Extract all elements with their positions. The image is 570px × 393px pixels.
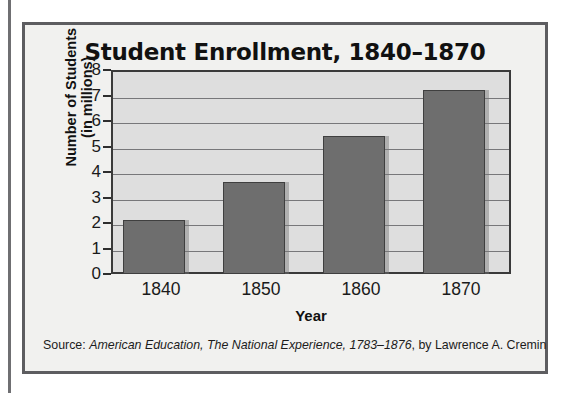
- figure-page: Student Enrollment, 1840–1870 012345678 …: [0, 0, 570, 393]
- y-axis-tick-label: 3: [92, 188, 101, 208]
- source-note: Source: American Education, The National…: [43, 338, 533, 352]
- gridline: [113, 98, 509, 99]
- gridline: [113, 123, 509, 124]
- y-axis-tick: [103, 197, 111, 199]
- y-axis-tick: [103, 273, 111, 275]
- x-axis-title: Year: [111, 307, 511, 324]
- y-axis-ticks: [103, 70, 111, 274]
- y-axis-title: Number of Students (in millions): [63, 7, 95, 187]
- y-axis-title-line2: (in millions): [79, 7, 95, 187]
- gridline: [113, 200, 509, 201]
- y-axis-tick: [103, 171, 111, 173]
- chart-title: Student Enrollment, 1840–1870: [25, 39, 545, 65]
- y-axis-tick: [103, 95, 111, 97]
- page-gutter-rule: [8, 0, 11, 393]
- y-axis-tick: [103, 222, 111, 224]
- y-axis-tick: [103, 120, 111, 122]
- y-axis-tick: [103, 248, 111, 250]
- source-work-title: American Education, The National Experie…: [89, 338, 411, 352]
- gridline: [113, 174, 509, 175]
- chart-figure-box: Student Enrollment, 1840–1870 012345678 …: [22, 22, 548, 374]
- x-axis-tick-label: 1860: [311, 279, 411, 300]
- source-suffix: , by Lawrence A. Cremin: [412, 338, 547, 352]
- y-axis-tick: [103, 69, 111, 71]
- y-axis-tick-label: 0: [92, 264, 101, 284]
- gridline: [113, 251, 509, 252]
- x-axis-tick-label: 1850: [211, 279, 311, 300]
- plot-area: [111, 70, 511, 274]
- source-prefix: Source:: [43, 338, 89, 352]
- gridlines: [113, 72, 509, 272]
- y-axis-title-line1: Number of Students: [63, 7, 79, 187]
- x-axis-tick-labels: 1840185018601870: [111, 279, 511, 305]
- gridline: [113, 149, 509, 150]
- gridline: [113, 225, 509, 226]
- y-axis-tick: [103, 146, 111, 148]
- x-axis-tick-label: 1840: [111, 279, 211, 300]
- y-axis-tick-label: 1: [92, 239, 101, 259]
- x-axis-tick-label: 1870: [411, 279, 511, 300]
- y-axis-tick-label: 2: [92, 213, 101, 233]
